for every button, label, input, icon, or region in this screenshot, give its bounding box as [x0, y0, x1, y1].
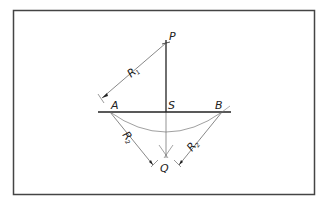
r1-arrowhead	[102, 93, 108, 98]
r2-right-dimension-line	[179, 112, 222, 165]
label-s: S	[168, 99, 175, 112]
label-r2-left: R 2	[120, 129, 137, 146]
diagram-canvas: P S A B Q R 1 R 2 R 2	[0, 0, 324, 201]
label-p: P	[169, 30, 176, 43]
label-a: A	[110, 99, 119, 112]
r1-extension-tick	[98, 94, 104, 103]
label-r1: R 1	[125, 63, 142, 80]
label-q: Q	[160, 162, 169, 175]
q-arc-left	[159, 145, 168, 158]
arc-extension-b	[222, 106, 230, 112]
label-r2-right: R 2	[184, 137, 201, 154]
q-arc-right	[164, 145, 173, 158]
r2-left-dimension-line	[110, 112, 153, 165]
label-b: B	[215, 99, 223, 112]
